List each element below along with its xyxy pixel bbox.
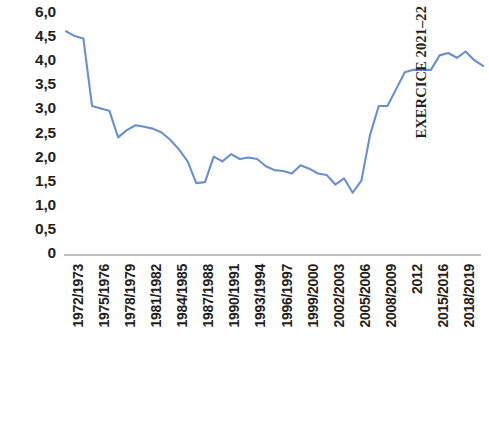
x-axis-tick-label: 2012: [410, 264, 424, 294]
y-axis-tick-label: 3,5: [35, 76, 56, 92]
x-axis-tick-label: 1981/1982: [149, 264, 163, 327]
x-axis-tick-label: 2008/2009: [384, 264, 398, 327]
x-axis-tick-label: 1984/1985: [175, 264, 189, 327]
y-axis-tick-label: 3,0: [35, 100, 56, 116]
line-chart: 6,04,54,03,53,02,52,01,51,00,50 1972/197…: [0, 0, 489, 430]
x-axis-tick-label: 2018/2019: [462, 264, 476, 327]
x-axis-tick-label: 1987/1988: [201, 264, 215, 327]
y-axis-tick-label: 4,0: [35, 52, 56, 68]
x-axis-tick-label: 2002/2003: [332, 264, 346, 327]
y-axis-tick-label: 4,5: [35, 28, 56, 44]
x-axis-tick-label: 1999/2000: [306, 264, 320, 327]
x-axis-tick-label: 1978/1979: [123, 264, 137, 327]
y-axis-tick-label: 0,5: [35, 221, 56, 237]
y-axis-tick-label: 1,5: [35, 173, 56, 189]
y-axis-tick-label: 1,0: [35, 197, 56, 213]
y-axis-tick-label: 6,0: [35, 4, 56, 20]
x-axis-tick-label: 2015/2016: [436, 264, 450, 327]
x-axis: 1972/19731975/19761978/19791981/19821984…: [62, 258, 489, 430]
x-axis-tick-label: 1975/1976: [97, 264, 111, 327]
x-axis-title: EXERCICE 2021–22: [414, 6, 429, 139]
x-axis-tick-label: 1996/1997: [280, 264, 294, 327]
x-axis-tick-label: 1972/1973: [71, 264, 85, 327]
x-axis-tick-label: 1993/1994: [253, 264, 267, 327]
y-axis-tick-label: 2,0: [35, 149, 56, 165]
y-axis-tick-label: 2,5: [35, 125, 56, 141]
y-axis-tick-label: 0: [48, 245, 56, 261]
category-axis-baseline: [64, 254, 481, 256]
y-axis: 6,04,54,03,53,02,52,01,51,00,50: [0, 0, 62, 268]
x-axis-tick-label: 1990/1991: [227, 264, 241, 327]
x-axis-tick-label: 2005/2006: [358, 264, 372, 327]
